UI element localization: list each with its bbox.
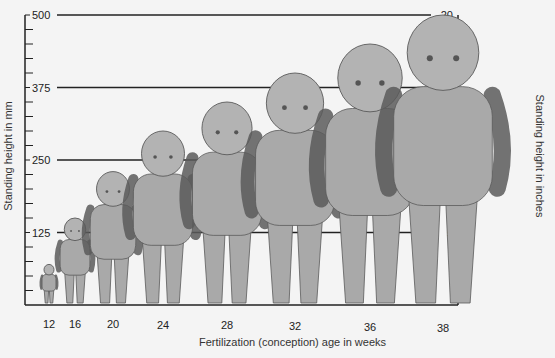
fetus-head xyxy=(202,102,252,155)
y-axis-label-right: Standing height in inches xyxy=(534,86,546,226)
fetus-eye xyxy=(355,80,360,85)
fetus-leg-left xyxy=(44,289,48,303)
fetus-leg-right xyxy=(297,216,323,303)
fetus-eye xyxy=(169,155,173,159)
fetus-eye xyxy=(303,105,308,110)
fetus-leg-right xyxy=(229,227,251,303)
fetus-eye xyxy=(70,230,72,232)
y-tick-label-left: 250 xyxy=(32,154,50,166)
fetus-torso xyxy=(394,87,493,206)
x-tick-label: 38 xyxy=(437,322,449,334)
fetus-arm-left xyxy=(57,242,60,270)
plot-area: 12525037550051015201216202428323638 xyxy=(0,0,555,358)
x-tick-label: 12 xyxy=(43,318,55,330)
x-tick-label: 36 xyxy=(364,321,376,333)
fetal-growth-chart: 12525037550051015201216202428323638 Stan… xyxy=(0,0,555,358)
fetus-leg-left xyxy=(97,254,112,303)
y-tick-label-left: 125 xyxy=(32,227,50,239)
fetus-eye xyxy=(153,155,157,159)
fetus-head xyxy=(142,131,185,176)
fetus-eye xyxy=(379,80,384,85)
fetus-leg-right xyxy=(114,254,129,303)
y-axis-label-left: Standing height in mm xyxy=(2,86,14,226)
fetus-leg-right xyxy=(49,289,53,303)
x-tick-label: 32 xyxy=(289,320,301,332)
fetus-head xyxy=(44,264,54,275)
fetus-eye xyxy=(427,55,433,61)
fetus-leg-left xyxy=(267,216,293,303)
fetus-arm-left xyxy=(248,137,256,211)
fetus-eye xyxy=(216,130,220,134)
fetus-leg-left xyxy=(408,194,440,303)
fetus-arm-left xyxy=(384,95,394,188)
fetus-arm-left xyxy=(127,179,133,235)
fetus-eye xyxy=(234,130,238,134)
fetus-eye xyxy=(78,230,80,232)
fetus-arm-left xyxy=(86,209,91,252)
fetus-arm-left xyxy=(317,116,326,200)
y-tick-label-left: 500 xyxy=(32,9,50,21)
y-tick-label-left: 375 xyxy=(32,82,50,94)
fetus-arm-right xyxy=(492,95,502,188)
x-tick-label: 28 xyxy=(221,319,233,331)
fetus-leg-right xyxy=(445,194,477,303)
fetus-eye xyxy=(453,55,459,61)
fetus-leg-left xyxy=(203,227,225,303)
fetus-eye xyxy=(106,190,109,193)
fetus-leg-left xyxy=(339,205,368,303)
fetus-figure xyxy=(41,264,58,303)
fetus-leg-right xyxy=(164,238,183,303)
fetus-figure xyxy=(384,15,503,303)
fetus-leg-right xyxy=(372,205,401,303)
x-tick-label: 16 xyxy=(69,318,81,330)
x-axis-label: Fertilization (conception) age in weeks xyxy=(0,336,555,348)
fetus-eye xyxy=(118,190,121,193)
fetus-leg-right xyxy=(76,272,86,303)
fetus-arm-left xyxy=(185,158,192,223)
fetus-head xyxy=(407,15,479,90)
fetus-leg-left xyxy=(65,272,75,303)
x-tick-label: 20 xyxy=(107,318,119,330)
fetus-torso xyxy=(42,274,56,291)
fetus-eye xyxy=(282,105,287,110)
x-tick-label: 24 xyxy=(157,319,169,331)
fetus-leg-left xyxy=(142,238,161,303)
